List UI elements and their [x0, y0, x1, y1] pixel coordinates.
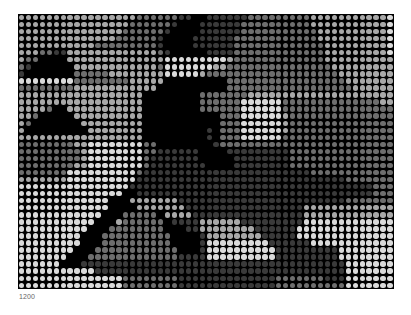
halftone-dot: [179, 247, 184, 252]
halftone-dot: [95, 142, 100, 147]
halftone-dot: [88, 29, 93, 34]
halftone-dot: [61, 92, 66, 97]
halftone-dot: [276, 219, 281, 224]
halftone-dot: [123, 240, 128, 245]
halftone-dot: [123, 170, 128, 175]
halftone-dot: [207, 283, 212, 288]
halftone-dot: [241, 212, 246, 217]
halftone-dot: [47, 226, 52, 231]
halftone-dot: [373, 43, 378, 48]
halftone-dot: [33, 106, 38, 111]
halftone-dot: [88, 121, 93, 126]
halftone-dot: [151, 184, 156, 189]
halftone-dot: [360, 240, 365, 245]
halftone-dot: [193, 64, 198, 69]
halftone-dot: [158, 212, 163, 217]
halftone-dot: [172, 135, 177, 140]
halftone-dot: [61, 261, 66, 266]
halftone-dot: [297, 254, 302, 259]
halftone-dot: [332, 128, 337, 133]
halftone-dot: [339, 142, 344, 147]
halftone-dot: [61, 142, 66, 147]
halftone-dot: [366, 177, 371, 182]
halftone-dot: [123, 276, 128, 281]
halftone-dot: [241, 283, 246, 288]
halftone-dot: [255, 261, 260, 266]
halftone-dot: [325, 240, 330, 245]
halftone-dot: [151, 64, 156, 69]
halftone-dot: [366, 106, 371, 111]
halftone-dot: [290, 22, 295, 27]
halftone-dot: [297, 233, 302, 238]
halftone-dot: [54, 64, 59, 69]
halftone-dot: [339, 135, 344, 140]
halftone-dot: [33, 268, 38, 273]
halftone-dot: [54, 240, 59, 245]
halftone-dot: [318, 219, 323, 224]
halftone-dot: [130, 233, 135, 238]
halftone-dot: [47, 283, 52, 288]
halftone-dot: [241, 71, 246, 76]
halftone-dot: [207, 247, 212, 252]
halftone-dot: [179, 268, 184, 273]
halftone-dot: [26, 43, 31, 48]
halftone-dot: [283, 163, 288, 168]
halftone-dot: [33, 128, 38, 133]
halftone-dot: [40, 15, 45, 20]
halftone-dot: [262, 113, 267, 118]
halftone-dot: [297, 113, 302, 118]
halftone-dot: [123, 226, 128, 231]
halftone-dot: [297, 184, 302, 189]
halftone-dot: [151, 191, 156, 196]
halftone-dot: [144, 57, 149, 62]
halftone-dot: [255, 156, 260, 161]
halftone-dot: [26, 191, 31, 196]
halftone-dot: [151, 15, 156, 20]
halftone-dot: [283, 113, 288, 118]
halftone-dot: [241, 163, 246, 168]
halftone-dot: [283, 22, 288, 27]
halftone-dot: [102, 261, 107, 266]
halftone-dot: [109, 276, 114, 281]
halftone-dot: [193, 283, 198, 288]
halftone-dot: [40, 233, 45, 238]
halftone-dot: [234, 177, 239, 182]
halftone-dot: [19, 15, 24, 20]
halftone-dot: [248, 78, 253, 83]
halftone-dot: [220, 99, 225, 104]
halftone-dot: [151, 121, 156, 126]
halftone-dot: [179, 22, 184, 27]
halftone-dot: [318, 170, 323, 175]
halftone-dot: [158, 128, 163, 133]
halftone-dot: [366, 276, 371, 281]
halftone-dot: [123, 22, 128, 27]
halftone-dot: [88, 135, 93, 140]
halftone-dot: [193, 233, 198, 238]
halftone-dot: [19, 205, 24, 210]
halftone-dot: [373, 247, 378, 252]
halftone-dot: [81, 219, 86, 224]
halftone-dot: [33, 113, 38, 118]
halftone-dot: [297, 29, 302, 34]
halftone-dot: [67, 64, 72, 69]
halftone-dot: [311, 240, 316, 245]
halftone-dot: [88, 99, 93, 104]
halftone-dot: [165, 71, 170, 76]
halftone-dot: [283, 128, 288, 133]
halftone-dot: [67, 261, 72, 266]
halftone-dot: [61, 156, 66, 161]
halftone-dot: [248, 191, 253, 196]
halftone-dot: [304, 247, 309, 252]
halftone-dot: [318, 36, 323, 41]
halftone-dot: [297, 149, 302, 154]
halftone-dot: [40, 121, 45, 126]
halftone-dot: [130, 212, 135, 217]
halftone-dot: [54, 99, 59, 104]
halftone-dot: [269, 92, 274, 97]
halftone-dot: [380, 71, 385, 76]
halftone-dot: [318, 233, 323, 238]
halftone-dot: [207, 57, 212, 62]
halftone-dot: [40, 128, 45, 133]
halftone-dot: [380, 184, 385, 189]
halftone-dot: [61, 170, 66, 175]
